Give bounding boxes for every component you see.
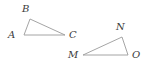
vertex-label-n: N [116,22,125,32]
triangle-abc-shape [24,19,65,35]
geometry-figure: A B C M N O [0,0,142,67]
triangle-abc-outline [24,19,65,35]
vertex-label-m: M [68,50,78,60]
vertex-label-o: O [132,50,140,60]
vertex-label-a: A [8,30,15,40]
triangle-mno-shape [83,37,128,55]
vertex-label-b: B [22,4,29,14]
triangle-mno-outline [83,37,128,55]
vertex-label-c: C [69,30,77,40]
